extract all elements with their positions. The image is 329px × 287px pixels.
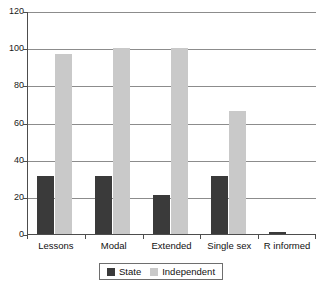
bar-state [269, 232, 286, 234]
legend-label: State [119, 267, 141, 277]
y-axis-tick-label: 20 [2, 193, 24, 202]
bar-state [37, 176, 54, 234]
bar-state [153, 195, 170, 234]
bar-independent [171, 48, 188, 234]
y-axis-tick-label: 80 [2, 81, 24, 90]
bars-layer [28, 12, 316, 234]
y-axis-tick-label: 40 [2, 156, 24, 165]
y-axis-tick-label: 0 [2, 230, 24, 239]
x-axis-tick-mark [258, 235, 259, 239]
chart-legend: StateIndependent [99, 263, 223, 280]
x-axis-tick-labels: LessonsModalExtendedSingle sexR informed [27, 240, 316, 256]
x-axis-tick-label: R informed [258, 240, 316, 252]
x-axis-tick-label: Modal [85, 240, 143, 252]
legend-swatch-icon [107, 268, 115, 276]
plot-area [27, 12, 316, 235]
bar-group [86, 12, 144, 234]
x-axis-tick-label: Extended [143, 240, 201, 252]
x-axis-tick-mark [85, 235, 86, 239]
legend-swatch-icon [150, 268, 158, 276]
bar-group [201, 12, 259, 234]
x-axis-tick-label: Single sex [200, 240, 258, 252]
y-axis-tick-label: 100 [2, 44, 24, 53]
bar-state [95, 176, 112, 234]
y-axis-tick-label: 120 [2, 7, 24, 16]
bar-independent [113, 48, 130, 234]
x-axis-tick-mark [200, 235, 201, 239]
bar-independent [55, 54, 72, 234]
y-axis-tick-label: 60 [2, 119, 24, 128]
x-axis-tick-mark [315, 235, 316, 239]
bar-independent [229, 111, 246, 234]
bar-state [211, 176, 228, 234]
y-axis-tick-labels: 020406080100120 [0, 0, 24, 287]
bar-chart: 020406080100120 LessonsModalExtendedSing… [0, 0, 329, 287]
bar-group [144, 12, 202, 234]
legend-entry: Independent [150, 267, 215, 277]
legend-entry: State [107, 267, 141, 277]
x-axis-tick-label: Lessons [27, 240, 85, 252]
x-axis-tick-mark [27, 235, 28, 239]
bar-group [28, 12, 86, 234]
bar-group [259, 12, 317, 234]
x-axis-tick-mark [143, 235, 144, 239]
legend-label: Independent [162, 267, 215, 277]
